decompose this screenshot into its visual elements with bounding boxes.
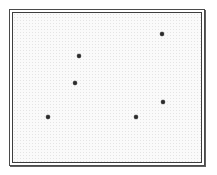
data-point xyxy=(46,115,50,119)
data-point xyxy=(77,54,81,58)
data-point xyxy=(73,81,77,85)
plot-area xyxy=(13,13,201,162)
scatter-plot-figure xyxy=(0,0,217,175)
data-point xyxy=(134,115,138,119)
data-point xyxy=(161,100,165,104)
data-point xyxy=(160,32,164,36)
